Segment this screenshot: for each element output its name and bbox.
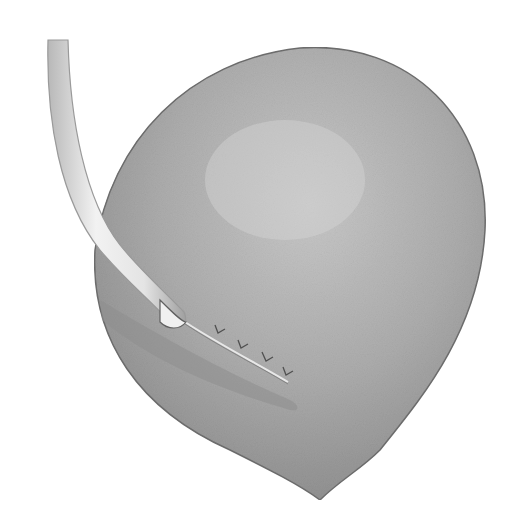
organ-body [95,47,486,500]
medical-illustration [0,0,520,523]
organ-highlight [205,120,365,240]
illustration-svg [0,0,520,523]
